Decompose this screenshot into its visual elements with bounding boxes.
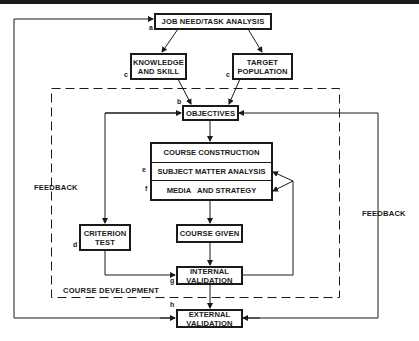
objectives-box: OBJECTIVES [182,105,239,121]
knowledge-line2: AND SKILL [138,67,179,76]
criterion-test-box: CRITERION TEST [79,224,131,251]
internal-line2: VALIDATION [186,276,232,285]
external-line1: EXTERNAL [189,310,231,319]
job-need-task-analysis-box: JOB NEED/TASK ANALYSIS [154,13,272,30]
marker-f: f [145,185,147,192]
internal-validation-box: INTERNAL VALIDATION [176,266,243,285]
feedback-left-label: FEEDBACK [34,183,78,192]
feedback-right-label: FEEDBACK [362,209,406,218]
marker-h: h [170,301,174,308]
subject-matter-analysis-row: SUBJECT MATTER ANALYSIS [152,162,271,181]
knowledge-line1: KNOWLEDGE [133,58,184,67]
course-construction-row: COURSE CONSTRUCTION [152,144,271,162]
criterion-line1: CRITERION [84,229,127,238]
course-development-label: COURSE DEVELOPMENT [61,286,161,295]
target-population-box: TARGET POPULATION [232,53,293,80]
course-given-label: COURSE GIVEN [180,229,239,238]
marker-a: a [149,24,153,31]
knowledge-and-skill-box: KNOWLEDGE AND SKILL [130,53,187,80]
target-line2: POPULATION [237,67,287,76]
job-need-label: JOB NEED/TASK ANALYSIS [162,17,265,26]
internal-line1: INTERNAL [190,267,229,276]
marker-c-target: c [226,71,230,78]
target-line1: TARGET [247,58,278,67]
external-validation-box: EXTERNAL VALIDATION [176,309,243,328]
marker-g: g [170,277,174,284]
objectives-label: OBJECTIVES [186,109,235,118]
marker-c-knowledge: c [124,71,128,78]
external-line2: VALIDATION [186,319,232,328]
media-and-strategy-row: MEDIA AND STRATEGY [152,180,271,199]
marker-d: d [73,241,77,248]
marker-b: b [177,98,181,105]
course-given-box: COURSE GIVEN [176,224,243,243]
course-construction-box: COURSE CONSTRUCTION SUBJECT MATTER ANALY… [150,142,273,201]
criterion-line2: TEST [95,238,115,247]
marker-e: e [142,166,146,173]
